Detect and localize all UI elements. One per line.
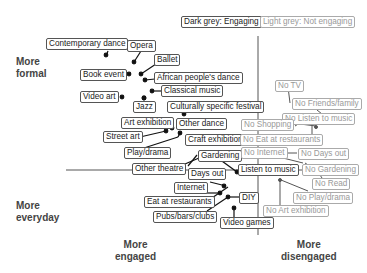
label-no-art-exhibition: No Art exhibition (263, 205, 329, 217)
label-video-art: Video art (80, 91, 119, 103)
label-other-dance: Other dance (176, 118, 227, 130)
legend-not-engaging: Light grey: Not engaging (260, 16, 355, 28)
axis-label-more-formal: More formal (16, 56, 47, 80)
label-gardening: Gardening (198, 150, 242, 162)
label-internet: Internet (174, 182, 208, 194)
label-no-days-out: No Days out (298, 148, 349, 160)
label-no-eat-at-restaurants: No Eat at restaurants (240, 134, 323, 146)
axis-label-more-engaged: More engaged (115, 239, 156, 263)
axis-label-line: disengaged (281, 251, 337, 263)
axis-label-line: everyday (16, 212, 59, 224)
label-ballet: Ballet (154, 54, 180, 66)
label-classical-music: Classical music (161, 85, 223, 97)
label-no-friends-family: No Friends/family (292, 98, 362, 110)
axis-label-line: More (281, 239, 337, 251)
label-no-read: No Read (312, 178, 350, 190)
axis-label-line: More (16, 200, 59, 212)
axis-label-line: engaged (115, 251, 156, 263)
label-no-internet: No Internet (241, 147, 288, 159)
label-eat-at-restaurants: Eat at restaurants (144, 196, 215, 208)
label-listen-to-music: Listen to music (238, 164, 299, 176)
axis-label-line: More (16, 56, 47, 68)
label-no-play-drama: No Play/drama (293, 192, 353, 204)
axis-label-line: formal (16, 68, 47, 80)
label-pubs-bars-clubs: Pubs/bars/clubs (153, 211, 217, 223)
axis-label-line: More (115, 239, 156, 251)
label-days-out: Days out (188, 168, 226, 180)
label-no-tv: No TV (275, 80, 304, 92)
label-no-shopping: No Shopping (241, 119, 294, 131)
label-video-games: Video games (220, 217, 274, 229)
label-african-peoples-dance: African people's dance (154, 72, 243, 84)
label-book-event: Book event (80, 69, 127, 81)
label-craft-exhibition: Craft exhibition (185, 134, 246, 146)
axis-label-more-disengaged: More disengaged (281, 239, 337, 263)
axis-label-more-everyday: More everyday (16, 200, 59, 224)
label-jazz: Jazz (133, 101, 156, 113)
label-contemporary-dance: Contemporary dance (46, 38, 128, 50)
label-diy: DIY (239, 192, 259, 204)
label-culturally-specific-festival: Culturally specific festival (167, 101, 264, 113)
label-other-theatre: Other theatre (132, 163, 186, 175)
legend-engaging: Dark grey: Engaging (181, 16, 262, 28)
label-no-gardening: No Gardening (302, 164, 359, 176)
label-play-drama: Play/drama (124, 147, 171, 159)
label-street-art: Street art (103, 131, 143, 143)
label-art-exhibition: Art exhibition (121, 117, 174, 129)
label-opera: Opera (127, 40, 156, 52)
